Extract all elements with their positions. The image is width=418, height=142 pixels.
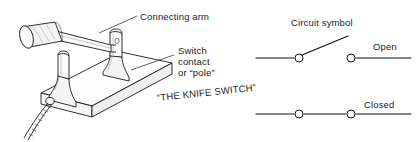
label-switch-contact-line2: contact bbox=[178, 56, 215, 67]
label-switch-contact-line1: Switch bbox=[178, 45, 215, 56]
label-state-open: Open bbox=[373, 41, 397, 52]
label-circuit-symbol: Circuit symbol bbox=[291, 17, 353, 28]
label-connecting-arm: Connecting arm bbox=[140, 11, 209, 22]
label-switch-contact: Switch contact or “pole” bbox=[178, 45, 215, 78]
label-switch-contact-line3: or “pole” bbox=[178, 67, 215, 78]
circuit-symbol-closed bbox=[256, 110, 411, 118]
figure-knife-switch: Connecting arm Switch contact or “pole” … bbox=[0, 0, 418, 142]
insulated-handle bbox=[17, 22, 62, 50]
twisted-lead-wire bbox=[24, 103, 52, 140]
label-state-closed: Closed bbox=[364, 99, 394, 110]
